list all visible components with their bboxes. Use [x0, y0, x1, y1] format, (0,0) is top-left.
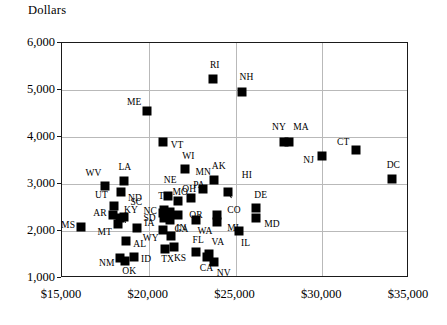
y-tick-mark	[57, 136, 61, 137]
y-tick-mark	[57, 277, 61, 278]
y-tick-mark	[57, 183, 61, 184]
y-tick-mark	[57, 230, 61, 231]
scatter-chart-figure: Dollars MSWVLANDUTARKYSCMTSDALIDNMOKMEVT…	[0, 0, 447, 325]
y-tick-mark	[57, 89, 61, 90]
axis-tick-marks	[0, 0, 447, 325]
y-tick-mark	[57, 42, 61, 43]
